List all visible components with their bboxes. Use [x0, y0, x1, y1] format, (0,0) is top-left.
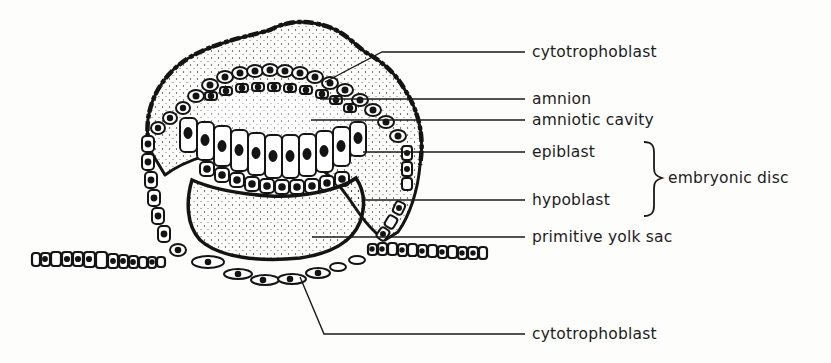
leader-cytotrophoblast-bottom [300, 277, 525, 334]
label-embryonic-disc: embryonic disc [668, 169, 789, 187]
diagram-canvas: cytotrophoblast amnion amniotic cavity e… [0, 0, 831, 363]
endometrial-epithelium-left [32, 252, 165, 268]
label-hypoblast: hypoblast [532, 191, 610, 209]
label-cytotrophoblast-bottom: cytotrophoblast [532, 325, 657, 343]
label-epiblast: epiblast [532, 143, 595, 161]
embryonic-disc-brace-icon [644, 142, 662, 216]
label-primitive-yolk-sac: primitive yolk sac [532, 228, 673, 246]
endometrial-epithelium-right [368, 243, 487, 259]
label-amniotic-cavity: amniotic cavity [532, 111, 654, 129]
label-amnion: amnion [532, 90, 591, 108]
label-cytotrophoblast-top: cytotrophoblast [532, 43, 657, 61]
